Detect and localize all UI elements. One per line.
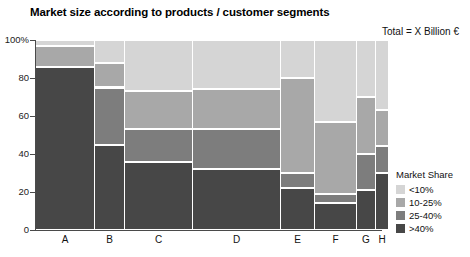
legend-swatch-icon — [396, 211, 405, 220]
x-axis-label-a: A — [36, 234, 94, 245]
segment-d-3[interactable] — [193, 169, 280, 230]
segment-h-1[interactable] — [376, 110, 388, 146]
legend-swatch-icon — [396, 185, 405, 194]
segment-g-2[interactable] — [357, 154, 375, 190]
legend-label: >40% — [409, 223, 434, 234]
y-tick-mark — [30, 230, 35, 231]
legend: Market Share <10%10-25%25-40%>40% — [396, 169, 468, 235]
segment-f-1[interactable] — [315, 122, 356, 194]
marimekko-column-h[interactable] — [376, 40, 388, 230]
total-annotation: Total = X Billion € — [382, 26, 459, 37]
legend-swatch-icon — [396, 198, 405, 207]
legend-item[interactable]: >40% — [396, 222, 468, 235]
segment-c-0[interactable] — [125, 40, 192, 91]
chart-page: Market size according to products / cust… — [0, 0, 470, 257]
marimekko-column-a[interactable] — [36, 40, 94, 230]
x-axis-label-f: F — [315, 234, 356, 245]
marimekko-column-f[interactable] — [315, 40, 356, 230]
segment-h-2[interactable] — [376, 146, 388, 173]
y-tick-mark — [30, 192, 35, 193]
legend-item[interactable]: 10-25% — [396, 196, 468, 209]
y-tick-label: 20 — [0, 186, 29, 197]
segment-h-0[interactable] — [376, 40, 388, 110]
y-tick-label: 40 — [0, 148, 29, 159]
segment-e-0[interactable] — [281, 40, 314, 78]
segment-a-3[interactable] — [36, 67, 94, 230]
segment-g-1[interactable] — [357, 97, 375, 154]
x-axis-label-h: H — [376, 234, 388, 245]
marimekko-column-g[interactable] — [357, 40, 375, 230]
legend-item[interactable]: <10% — [396, 183, 468, 196]
marimekko-column-b[interactable] — [95, 40, 124, 230]
segment-g-3[interactable] — [357, 190, 375, 230]
legend-items: <10%10-25%25-40%>40% — [396, 183, 468, 235]
segment-d-0[interactable] — [193, 40, 280, 89]
legend-label: <10% — [409, 184, 434, 195]
legend-item[interactable]: 25-40% — [396, 209, 468, 222]
legend-label: 10-25% — [409, 197, 442, 208]
segment-b-1[interactable] — [95, 63, 124, 88]
segment-e-3[interactable] — [281, 188, 314, 230]
segment-a-1[interactable] — [36, 46, 94, 67]
segment-f-3[interactable] — [315, 203, 356, 230]
y-tick-label: 0 — [0, 224, 29, 235]
y-tick-mark — [30, 116, 35, 117]
segment-b-2[interactable] — [95, 88, 124, 145]
segment-c-3[interactable] — [125, 162, 192, 230]
segment-e-2[interactable] — [281, 173, 314, 188]
segment-g-0[interactable] — [357, 40, 375, 97]
x-axis-line — [30, 230, 382, 231]
segment-d-2[interactable] — [193, 129, 280, 169]
marimekko-column-c[interactable] — [125, 40, 192, 230]
y-tick-label: 80 — [0, 72, 29, 83]
legend-title: Market Share — [396, 169, 468, 180]
segment-b-0[interactable] — [95, 40, 124, 63]
y-tick-mark — [30, 40, 35, 41]
segment-f-0[interactable] — [315, 40, 356, 122]
x-axis-label-e: E — [281, 234, 314, 245]
segment-c-2[interactable] — [125, 129, 192, 161]
marimekko-column-e[interactable] — [281, 40, 314, 230]
segment-d-1[interactable] — [193, 89, 280, 129]
x-axis-label-g: G — [357, 234, 375, 245]
x-axis-label-c: C — [125, 234, 192, 245]
y-tick-label: 100% — [0, 34, 29, 45]
segment-h-3[interactable] — [376, 173, 388, 230]
page-title: Market size according to products / cust… — [30, 6, 330, 18]
y-tick-mark — [30, 154, 35, 155]
y-tick-label: 60 — [0, 110, 29, 121]
segment-f-2[interactable] — [315, 194, 356, 204]
x-axis-label-b: B — [95, 234, 124, 245]
legend-label: 25-40% — [409, 210, 442, 221]
legend-swatch-icon — [396, 224, 405, 233]
segment-e-1[interactable] — [281, 78, 314, 173]
segment-b-3[interactable] — [95, 145, 124, 231]
x-axis-label-d: D — [193, 234, 280, 245]
marimekko-column-d[interactable] — [193, 40, 280, 230]
marimekko-plot — [36, 40, 381, 230]
y-tick-mark — [30, 78, 35, 79]
segment-c-1[interactable] — [125, 91, 192, 129]
